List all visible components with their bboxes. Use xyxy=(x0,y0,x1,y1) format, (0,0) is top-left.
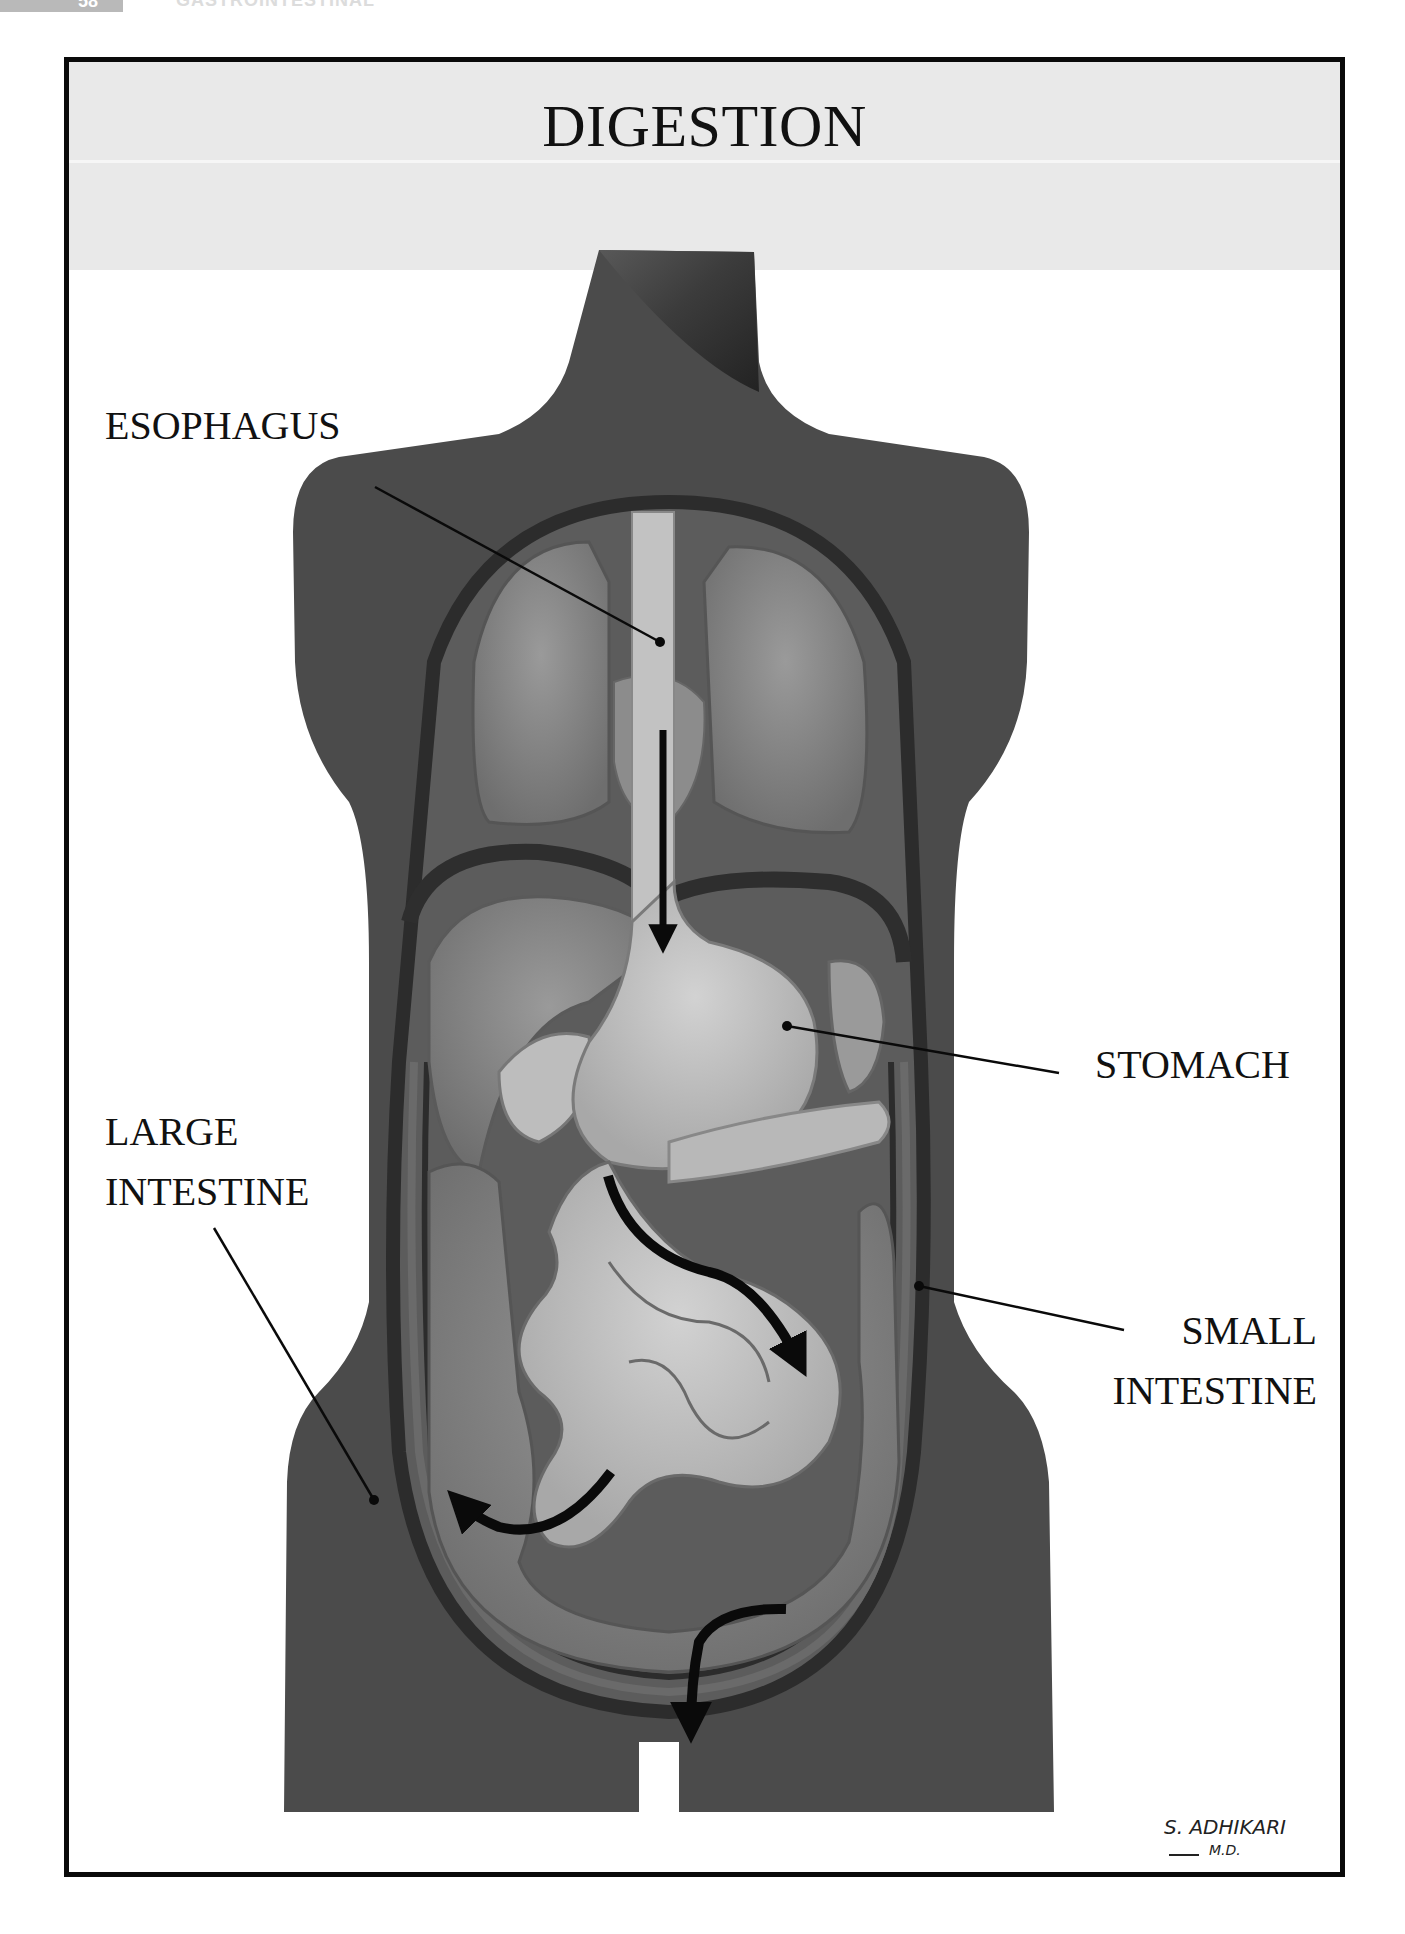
digestive-system-illustration xyxy=(69,62,1340,1872)
small-intestine-label-line2: INTESTINE xyxy=(1113,1365,1317,1417)
running-head: GASTROINTESTINAL xyxy=(176,0,375,11)
large-intestine-label-line2: INTESTINE xyxy=(105,1166,309,1218)
page-number-tab: 58 xyxy=(0,0,123,12)
artist-signature-name: S. ADHIKARI xyxy=(1164,1815,1286,1839)
large-intestine-label-line1: LARGE xyxy=(105,1106,238,1158)
stomach-label: STOMACH xyxy=(1095,1039,1290,1091)
page-number: 58 xyxy=(78,0,98,12)
figure-frame: DIGESTION xyxy=(64,57,1345,1877)
artist-signature-credential: M.D. xyxy=(1209,1842,1241,1858)
esophagus xyxy=(632,512,674,932)
esophagus-label: ESOPHAGUS xyxy=(105,400,341,452)
small-intestine-label-line1: SMALL xyxy=(1181,1305,1317,1357)
